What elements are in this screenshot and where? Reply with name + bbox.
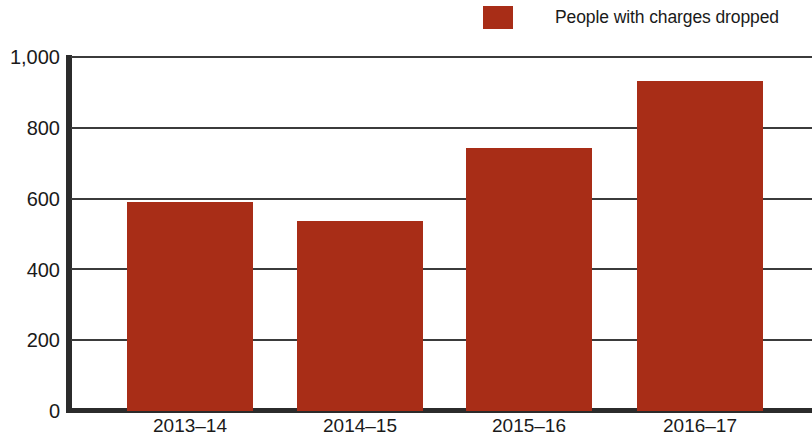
legend-label-people-with-charges-dropped: People with charges dropped	[555, 7, 779, 28]
y-tick-label-0: 0	[0, 401, 60, 421]
legend-swatch-icon	[483, 6, 513, 29]
y-tick-label-1000: 1,000	[0, 47, 60, 67]
bar-chart: People with charges dropped 1,000 800 60…	[0, 0, 812, 436]
y-axis-tick-labels: 1,000 800 600 400 200 0	[0, 0, 60, 436]
bar-series-people-with-charges-dropped	[71, 56, 812, 411]
plot-area	[71, 56, 812, 411]
x-axis-tick-labels: 2013–14 2014–15 2015–16 2016–17	[71, 416, 812, 436]
y-tick-label-400: 400	[0, 260, 60, 280]
x-tick-label-2014-15: 2014–15	[270, 416, 450, 435]
bar-2015-16	[466, 148, 592, 411]
x-tick-label-2016-17: 2016–17	[610, 416, 790, 435]
bar-2016-17	[637, 81, 763, 411]
chart-legend: People with charges dropped	[483, 4, 779, 30]
y-tick-label-600: 600	[0, 189, 60, 209]
y-tick-label-200: 200	[0, 330, 60, 350]
x-tick-label-2013-14: 2013–14	[100, 416, 280, 435]
y-tick-label-800: 800	[0, 118, 60, 138]
bar-2013-14	[127, 202, 253, 411]
x-tick-label-2015-16: 2015–16	[439, 416, 619, 435]
bar-2014-15	[297, 221, 423, 411]
